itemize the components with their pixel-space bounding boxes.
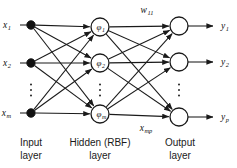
- edge-input2-hidden1: [35, 32, 91, 61]
- edge-input1-hidden1: [36, 25, 90, 27]
- output-node-1: [170, 17, 188, 35]
- edges-hidden-to-output: [106, 26, 172, 116]
- edge-hidden2-output2: [110, 62, 169, 63]
- output-ellipsis-dot-1: [178, 84, 180, 86]
- output-ellipsis-dot-2: [178, 89, 180, 91]
- output-layer-caption: Output layer: [120, 137, 237, 162]
- hidden-caption-line2: layer: [89, 150, 111, 161]
- input-arrow-stubs: [20, 25, 27, 113]
- rbf-network-figure: φ1φ2φm x1x2xmy1y2ypw11xmp Input layer Hi…: [0, 0, 237, 168]
- edge-input3-hidden2: [35, 69, 92, 110]
- input-node-2: [27, 59, 35, 67]
- edge-hidden2-output3: [108, 68, 171, 111]
- edge-hidden1-output3: [106, 34, 172, 109]
- edge-hidden3-output2: [108, 68, 171, 109]
- output-node-2: [170, 53, 188, 71]
- output-ellipsis-dot-3: [178, 95, 180, 97]
- edges-input-to-hidden: [34, 25, 94, 114]
- edge-hidden3-output3: [109, 114, 168, 116]
- output-caption-line2: layer: [169, 150, 191, 161]
- hidden-ellipsis-dot-2: [99, 89, 101, 91]
- output-node-3: [170, 108, 188, 126]
- input-ellipsis-dot-2: [30, 89, 32, 91]
- input-node-3: [27, 109, 35, 117]
- input-label-2: x2: [2, 58, 12, 69]
- weight-label: w11: [141, 5, 154, 16]
- input-label-3: xm: [1, 108, 12, 119]
- edge-hidden1-output1: [110, 26, 169, 27]
- xmp-label: xmp: [139, 123, 153, 134]
- output-arrow-stubs: [188, 26, 213, 117]
- output-caption-line1: Output: [165, 137, 195, 148]
- input-ellipsis-dot-3: [30, 95, 32, 97]
- input-ellipsis-dot-1: [30, 84, 32, 86]
- input-caption-line1: Input: [20, 137, 42, 148]
- edge-input1-hidden2: [35, 27, 91, 58]
- input-label-1: x1: [2, 20, 11, 31]
- output-label-2: y2: [220, 57, 230, 68]
- hidden-ellipsis-dot-3: [99, 95, 101, 97]
- input-caption-line2: layer: [20, 150, 42, 161]
- output-label-1: y1: [220, 21, 229, 32]
- input-node-1: [27, 21, 35, 29]
- hidden-ellipsis-dot-1: [99, 84, 101, 86]
- edge-input3-hidden3: [36, 113, 90, 114]
- edge-input1-hidden3: [34, 29, 94, 106]
- output-label-3: yp: [220, 112, 229, 123]
